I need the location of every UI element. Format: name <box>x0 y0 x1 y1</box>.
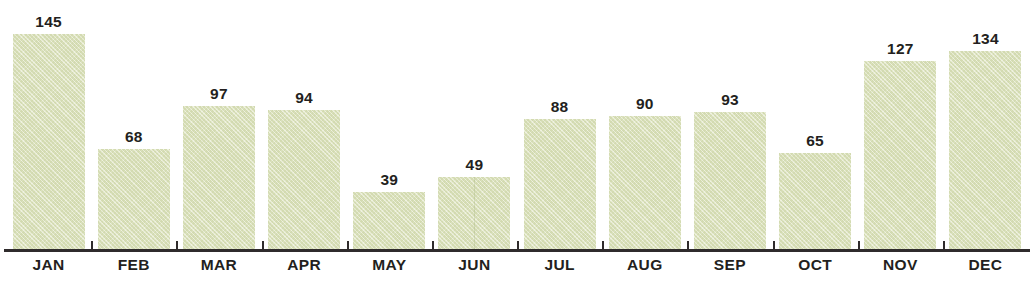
axis-tick <box>347 241 349 250</box>
bar-slot[interactable]: 97 <box>176 12 261 250</box>
bar-slot[interactable]: 90 <box>602 12 687 250</box>
axis-tick <box>858 241 860 250</box>
bar-value-label: 97 <box>210 86 228 102</box>
x-axis-labels: JANFEBMARAPRMAYJUNJULAUGSEPOCTNOVDEC <box>6 256 1028 274</box>
bar-slot[interactable]: 93 <box>687 12 772 250</box>
clipped-caption-text <box>14 291 634 297</box>
axis-tick <box>517 241 519 250</box>
axis-tick <box>176 241 178 250</box>
bar-value-label: 94 <box>295 90 313 106</box>
axis-tick <box>943 241 945 250</box>
bar-value-label: 65 <box>806 133 824 149</box>
bar-slot[interactable]: 49 <box>432 12 517 250</box>
x-label-jan: JAN <box>6 256 91 274</box>
bar-dec[interactable] <box>949 51 1021 250</box>
bar-value-label: 145 <box>35 14 61 30</box>
axis-tick <box>687 241 689 250</box>
bar-feb[interactable] <box>98 149 170 250</box>
bar-series: 145689794394988909365127134 <box>6 12 1028 250</box>
bar-value-label: 39 <box>380 172 398 188</box>
bar-value-label: 134 <box>972 31 998 47</box>
bar-aug[interactable] <box>609 116 681 250</box>
x-label-mar: MAR <box>176 256 261 274</box>
x-label-sep: SEP <box>687 256 772 274</box>
bar-value-label: 127 <box>887 41 913 57</box>
x-label-feb: FEB <box>91 256 176 274</box>
bar-jul[interactable] <box>524 119 596 250</box>
x-label-may: MAY <box>347 256 432 274</box>
bar-sep[interactable] <box>694 112 766 250</box>
x-label-aug: AUG <box>602 256 687 274</box>
bar-slot[interactable]: 127 <box>858 12 943 250</box>
bar-value-label: 90 <box>636 96 654 112</box>
bar-slot[interactable]: 145 <box>6 12 91 250</box>
bar-value-label: 88 <box>551 99 569 115</box>
bar-jan[interactable] <box>13 34 85 250</box>
bar-value-label: 93 <box>721 92 739 108</box>
x-axis-ticks <box>6 241 1028 250</box>
bar-value-label: 68 <box>125 129 143 145</box>
x-label-jun: JUN <box>432 256 517 274</box>
bar-mar[interactable] <box>183 106 255 250</box>
axis-tick <box>91 241 93 250</box>
axis-tick <box>602 241 604 250</box>
clipped-title-text <box>22 0 542 5</box>
x-label-dec: DEC <box>943 256 1028 274</box>
bar-slot[interactable]: 65 <box>773 12 858 250</box>
bar-jun[interactable] <box>438 177 510 250</box>
bar-slot[interactable]: 39 <box>347 12 432 250</box>
x-label-nov: NOV <box>858 256 943 274</box>
x-label-apr: APR <box>262 256 347 274</box>
bar-slot[interactable]: 94 <box>262 12 347 250</box>
bar-nov[interactable] <box>864 61 936 250</box>
plot-area: 145689794394988909365127134 <box>0 12 1036 250</box>
bar-slot[interactable]: 88 <box>517 12 602 250</box>
bar-slot[interactable]: 134 <box>943 12 1028 250</box>
bar-oct[interactable] <box>779 153 851 250</box>
bar-value-label: 49 <box>466 157 484 173</box>
x-label-jul: JUL <box>517 256 602 274</box>
bar-slot[interactable]: 68 <box>91 12 176 250</box>
axis-tick <box>432 241 434 250</box>
bar-apr[interactable] <box>268 110 340 250</box>
axis-tick <box>773 241 775 250</box>
x-label-oct: OCT <box>773 256 858 274</box>
bar-chart: 145689794394988909365127134 JANFEBMARAPR… <box>0 0 1036 297</box>
axis-tick <box>262 241 264 250</box>
